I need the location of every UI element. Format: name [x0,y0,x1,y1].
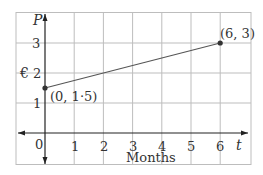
y-tick-1: 1 [33,96,41,111]
y-tick-2: 2 [33,66,41,81]
x-tick-2: 2 [100,139,108,154]
arrow-left-icon [18,131,25,136]
arrow-right-icon [241,131,248,136]
y-tick-3: 3 [32,36,40,51]
arrow-down-icon [43,157,48,164]
point-start-label: (0, 1·5) [50,89,97,104]
x-axis-title: Months [126,150,176,165]
point-end-label: (6, 3) [220,26,255,41]
x-tick-5: 5 [187,139,195,154]
chart: P t 3 € 2 1 0 1 2 3 4 5 6 Months (0, 1·5… [0,0,263,175]
x-axis-symbol: t [236,137,242,153]
x-tick-1: 1 [71,139,79,154]
y-axis-unit: € [19,65,29,81]
x-tick-6: 6 [216,139,224,154]
point-start [42,85,47,90]
point-end [218,40,223,45]
y-axis-symbol: P [32,12,43,28]
origin-label: 0 [35,137,43,152]
arrow-up-icon [43,14,48,21]
